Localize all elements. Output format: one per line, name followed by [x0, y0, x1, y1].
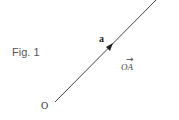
vector-notation: OA	[121, 63, 133, 72]
origin-label: O	[41, 100, 48, 111]
vector-label: a	[99, 33, 104, 44]
figure: Fig. 1 a O → OA	[0, 0, 179, 120]
vector-diagram	[0, 0, 179, 120]
vector-line	[55, 0, 156, 102]
figure-caption: Fig. 1	[12, 46, 40, 58]
